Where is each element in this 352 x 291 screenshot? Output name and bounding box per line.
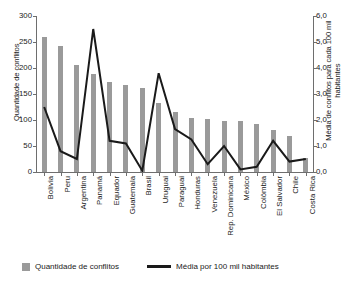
- plot-area: [36, 16, 314, 172]
- y-axis-right-tick-mark: [314, 68, 317, 69]
- y-axis-right-tick-label: 4,0: [316, 64, 338, 72]
- y-axis-left-tick-mark: [33, 172, 36, 173]
- legend-label-line: Média por 100 mil habitantes: [176, 262, 279, 271]
- line-series-path: [44, 29, 306, 171]
- x-axis-category-labels: BolíviaPeruArgentinaPanamáEquadorGuatema…: [36, 176, 314, 248]
- y-axis-left-ticks: 300250200150100500: [10, 0, 32, 291]
- x-axis-category-label: Argentina: [80, 176, 88, 209]
- y-axis-left-tick-label: 250: [10, 38, 32, 46]
- x-axis-category-label: Uruguai: [162, 176, 170, 203]
- x-axis-category-label: Rep. Dominicana: [227, 176, 235, 236]
- x-axis-category-label: El Salvador: [276, 176, 284, 216]
- y-axis-right-tick-label: 1,0: [316, 142, 338, 150]
- y-axis-left-tick-mark: [33, 146, 36, 147]
- x-axis-category-label: Bolívia: [47, 176, 55, 199]
- legend-item-line: Média por 100 mil habitantes: [147, 262, 279, 271]
- y-axis-right-ticks: 6,05,04,03,02,01,00,0: [316, 0, 340, 291]
- x-axis-category-label: Equador: [113, 176, 121, 205]
- y-axis-left-tick-label: 150: [10, 90, 32, 98]
- y-axis-left-tick-label: 100: [10, 116, 32, 124]
- y-axis-left-tick-label: 200: [10, 64, 32, 72]
- y-axis-right-tick-label: 3,0: [316, 90, 338, 98]
- x-axis-category-label: Paraguai: [178, 176, 186, 207]
- x-axis-category-label: Honduras: [194, 176, 202, 210]
- legend-label-bars: Quantidade de conflitos: [35, 262, 119, 271]
- legend-square-swatch-icon: [22, 263, 30, 271]
- line-series: [36, 16, 314, 172]
- x-axis-category-label: Chile: [292, 176, 300, 194]
- legend-item-bars: Quantidade de conflitos: [22, 262, 119, 271]
- x-axis-category-label: Colômbia: [260, 176, 268, 209]
- x-axis-category-label: Brasil: [145, 176, 153, 196]
- y-axis-right-tick-label: 5,0: [316, 38, 338, 46]
- y-axis-right-tick-mark: [314, 120, 317, 121]
- y-axis-right-tick-label: 2,0: [316, 116, 338, 124]
- y-axis-left-tick-mark: [33, 94, 36, 95]
- y-axis-left-tick-label: 50: [10, 142, 32, 150]
- y-axis-left-tick-mark: [33, 68, 36, 69]
- y-axis-right-tick-mark: [314, 42, 317, 43]
- chart-legend: Quantidade de conflitos Média por 100 mi…: [22, 262, 279, 271]
- x-axis-category-label: Costa Rica: [309, 176, 317, 214]
- x-axis-category-label: México: [243, 176, 251, 201]
- x-axis-category-label: Guatemala: [129, 176, 137, 214]
- x-axis-category-label: Panamá: [96, 176, 104, 205]
- y-axis-left-tick-mark: [33, 42, 36, 43]
- y-axis-right-tick-label: 0,0: [316, 168, 338, 176]
- y-axis-right-tick-mark: [314, 94, 317, 95]
- legend-line-swatch-icon: [147, 265, 171, 268]
- y-axis-left-tick-mark: [33, 16, 36, 17]
- x-axis-category-label: Venezuela: [211, 176, 219, 212]
- y-axis-left-tick-label: 0: [10, 168, 32, 176]
- y-axis-right-tick-mark: [314, 172, 317, 173]
- y-axis-left-tick-mark: [33, 120, 36, 121]
- y-axis-right-tick-label: 6,0: [316, 12, 338, 20]
- y-axis-right-tick-mark: [314, 16, 317, 17]
- y-axis-left-tick-label: 300: [10, 12, 32, 20]
- y-axis-right-tick-mark: [314, 146, 317, 147]
- chart-container: Quantidade de conflitos Média de conflit…: [0, 0, 352, 291]
- x-axis-category-label: Peru: [64, 176, 72, 192]
